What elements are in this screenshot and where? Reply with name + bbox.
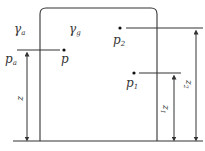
pa-label: pa — [5, 52, 17, 67]
point-p2-dot — [118, 26, 121, 29]
gamma-g-label: γg — [69, 22, 81, 37]
point-p1-dot — [132, 71, 135, 74]
z1-label: z1 — [160, 104, 171, 114]
point-p2-label: p2 — [113, 33, 126, 48]
z-label: z — [16, 95, 26, 101]
pressure-diagram: γa γg p pa z p2 p1 z1 z2 — [0, 0, 205, 151]
gamma-a-label: γa — [14, 22, 25, 37]
z2-label: z2 — [183, 79, 194, 89]
point-p1-label: p1 — [126, 76, 138, 91]
point-p-label: p — [61, 52, 69, 66]
